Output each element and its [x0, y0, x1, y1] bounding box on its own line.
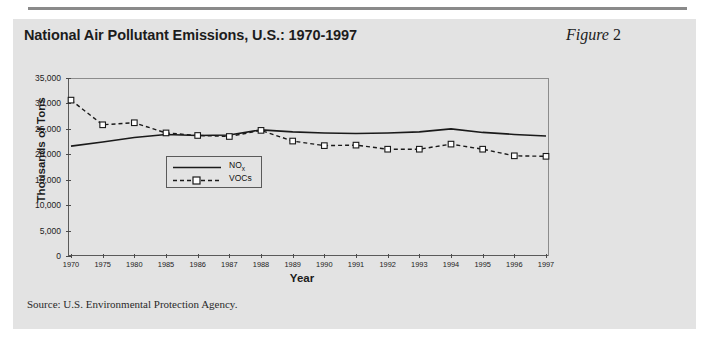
data-point-marker — [163, 130, 169, 136]
data-point-marker — [227, 134, 233, 140]
data-point-marker — [132, 120, 138, 126]
data-point-marker — [195, 133, 201, 139]
legend-swatch-dashed — [171, 174, 223, 187]
emissions-line-chart: Thousands of Tons Year 05,00010,00015,00… — [21, 66, 561, 291]
data-point-marker — [353, 142, 359, 148]
figure-title: National Air Pollutant Emissions, U.S.: … — [24, 27, 357, 43]
legend-entry-vocs: VOCs — [171, 173, 261, 186]
data-point-marker — [480, 146, 486, 152]
data-point-marker — [258, 128, 264, 134]
series-line-nox — [71, 129, 546, 146]
data-point-marker — [100, 122, 106, 128]
data-point-marker — [417, 146, 423, 152]
source-note: Source: U.S. Environmental Protection Ag… — [27, 298, 237, 310]
figure-number-prefix: Figure — [566, 26, 609, 43]
data-point-marker — [543, 154, 549, 160]
chart-legend: NOx VOCs — [166, 156, 262, 188]
figure-number-value: 2 — [613, 26, 621, 43]
legend-label-nox: NOx — [229, 160, 245, 172]
data-point-marker — [290, 138, 296, 144]
data-point-marker — [448, 141, 454, 147]
top-divider-rule — [28, 7, 687, 10]
data-point-marker — [322, 143, 328, 149]
series-line-vocs — [71, 100, 546, 156]
figure-number-label: Figure 2 — [566, 26, 621, 44]
x-axis-label: Year — [55, 272, 549, 284]
data-point-marker — [512, 153, 518, 159]
legend-label-vocs: VOCs — [229, 173, 252, 183]
series-plot — [21, 66, 561, 266]
data-point-marker — [385, 146, 391, 152]
data-point-marker — [68, 97, 74, 103]
legend-entry-nox: NOx — [171, 160, 261, 173]
